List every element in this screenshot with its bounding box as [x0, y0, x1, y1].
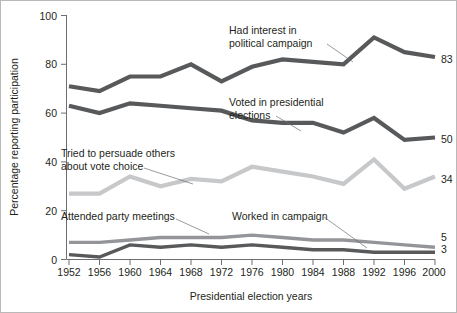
- x-tick-label-1972: 1972: [210, 266, 234, 278]
- end-value-labels: 83 50 34 5 3: [441, 53, 453, 255]
- annotation-attended-leader: [176, 219, 209, 234]
- x-tick-label-1952: 1952: [57, 266, 81, 278]
- end-label-worked: 3: [441, 243, 447, 255]
- y-tick-marks: [61, 16, 67, 260]
- x-tick-label-1984: 1984: [301, 266, 325, 278]
- annotation-worked: Worked in campaign: [232, 210, 367, 248]
- y-tick-label-100: 100: [39, 10, 57, 22]
- x-tick-label-1960: 1960: [118, 266, 142, 278]
- annotation-had-interest: Had interest in political campaign: [229, 24, 353, 62]
- x-tick-label-1980: 1980: [271, 266, 295, 278]
- end-label-voted: 50: [441, 133, 453, 145]
- x-axis-title: Presidential election years: [190, 290, 313, 302]
- y-tick-label-80: 80: [45, 58, 57, 70]
- end-label-persuade: 34: [441, 173, 453, 185]
- annotation-attended-label: Attended party meetings: [61, 210, 175, 222]
- x-tick-label-1988: 1988: [332, 266, 356, 278]
- y-axis-title: Percentage reporting participation: [8, 58, 20, 216]
- end-label-attended: 5: [441, 231, 447, 243]
- y-tick-label-20: 20: [45, 205, 57, 217]
- annotation-attended: Attended party meetings: [61, 210, 209, 234]
- chart-figure: 100 80 60 40 20 0: [0, 0, 457, 313]
- x-tick-label-2000: 2000: [422, 266, 446, 278]
- annotation-persuade-line1: Tried to persuade others: [61, 147, 175, 159]
- annotation-persuade-line2: about vote choice: [61, 160, 143, 172]
- y-tick-label-60: 60: [45, 107, 57, 119]
- line-chart: 100 80 60 40 20 0: [1, 1, 457, 313]
- x-tick-label-1976: 1976: [240, 266, 264, 278]
- annotation-worked-leader: [324, 217, 367, 248]
- x-tick-label-1964: 1964: [149, 266, 173, 278]
- annotation-had-interest-line1: Had interest in: [229, 24, 297, 36]
- annotation-had-interest-line2: political campaign: [229, 37, 313, 49]
- annotation-voted-line1: Voted in presidential: [229, 96, 324, 108]
- annotation-had-interest-leader: [327, 44, 353, 62]
- end-label-had-interest: 83: [441, 53, 453, 65]
- annotation-worked-label: Worked in campaign: [232, 210, 328, 222]
- x-tick-label-1996: 1996: [393, 266, 417, 278]
- x-tick-label-1956: 1956: [88, 266, 112, 278]
- x-tick-label-1992: 1992: [362, 266, 386, 278]
- y-tick-label-0: 0: [51, 254, 57, 266]
- y-tick-label-40: 40: [45, 156, 57, 168]
- annotation-voted-line2: elections: [229, 109, 270, 121]
- x-tick-marks: [69, 260, 435, 266]
- series-line-worked: [69, 245, 435, 257]
- x-tick-label-1968: 1968: [179, 266, 203, 278]
- annotation-voted: Voted in presidential elections: [229, 96, 324, 131]
